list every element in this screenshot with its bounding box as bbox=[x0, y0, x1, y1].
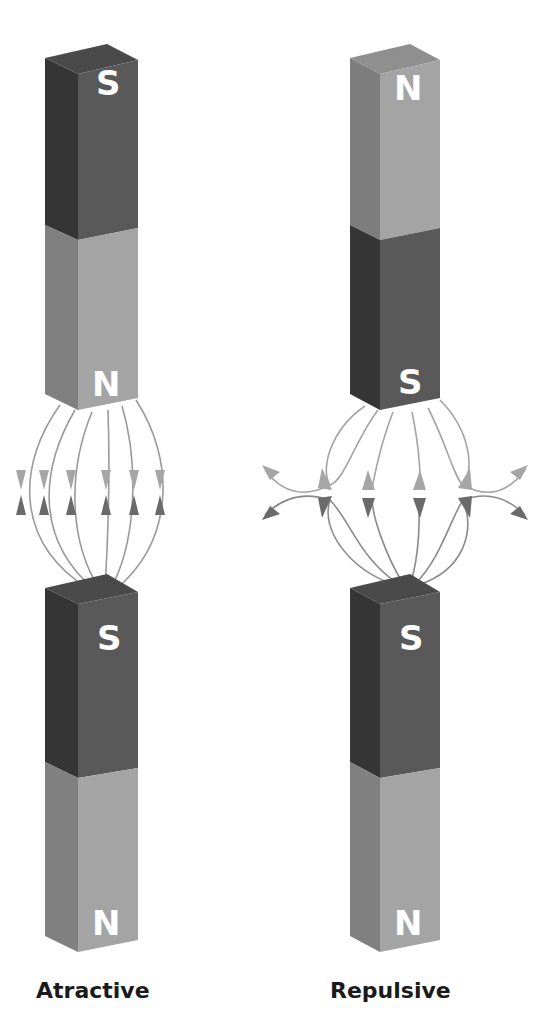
arrow-down-icon bbox=[39, 470, 49, 490]
arrow-down-icon bbox=[458, 496, 472, 518]
repulsive-field-lines-lower bbox=[265, 496, 525, 585]
pole-label-s: S bbox=[97, 618, 122, 658]
south-side-face bbox=[45, 58, 78, 240]
attractive-field-arrows bbox=[16, 470, 165, 515]
attractive-field-lines bbox=[30, 400, 163, 590]
arrow-down-icon bbox=[129, 470, 139, 490]
arrow-downright-icon bbox=[510, 506, 528, 520]
arrow-up-icon bbox=[101, 495, 111, 515]
arrow-down-icon bbox=[318, 496, 332, 518]
pole-label-s: S bbox=[399, 618, 424, 658]
attractive-bottom-magnet: S N bbox=[45, 574, 138, 952]
south-side-face bbox=[45, 588, 78, 778]
arrow-down-icon bbox=[413, 498, 426, 518]
attractive-caption: Atractive bbox=[36, 978, 150, 1003]
repulsive-field-lines-upper bbox=[265, 400, 525, 492]
pole-label-s: S bbox=[96, 63, 121, 103]
repulsive-panel: N S bbox=[262, 44, 528, 952]
arrow-up-icon bbox=[155, 495, 165, 515]
north-side-face bbox=[45, 225, 78, 410]
pole-label-n: N bbox=[92, 364, 120, 404]
pole-label-n: N bbox=[394, 903, 422, 943]
arrow-down-icon bbox=[16, 470, 26, 490]
north-side-face bbox=[350, 58, 380, 240]
pole-label-s: S bbox=[398, 362, 423, 402]
north-side-face bbox=[45, 762, 78, 952]
attractive-panel: S N bbox=[16, 44, 165, 952]
north-side-face bbox=[350, 762, 380, 952]
pole-label-n: N bbox=[394, 68, 422, 108]
arrow-up-icon bbox=[39, 495, 49, 515]
arrow-up-icon bbox=[413, 470, 426, 490]
magnet-diagram: S N bbox=[0, 0, 535, 1034]
repulsive-caption: Repulsive bbox=[330, 978, 451, 1003]
repulsive-bottom-magnet: S N bbox=[350, 574, 440, 952]
arrow-up-icon bbox=[129, 495, 139, 515]
pole-label-n: N bbox=[92, 903, 120, 943]
arrow-upright-icon bbox=[510, 465, 528, 480]
arrow-downleft-icon bbox=[262, 506, 280, 520]
arrow-up-icon bbox=[16, 495, 26, 515]
repulsive-top-magnet: N S bbox=[350, 44, 440, 410]
attractive-top-magnet: S N bbox=[45, 44, 138, 410]
arrow-upleft-icon bbox=[262, 465, 280, 480]
arrow-up-icon bbox=[318, 468, 332, 490]
south-side-face bbox=[350, 588, 380, 778]
south-side-face bbox=[350, 225, 380, 410]
arrow-up-icon bbox=[458, 468, 472, 490]
